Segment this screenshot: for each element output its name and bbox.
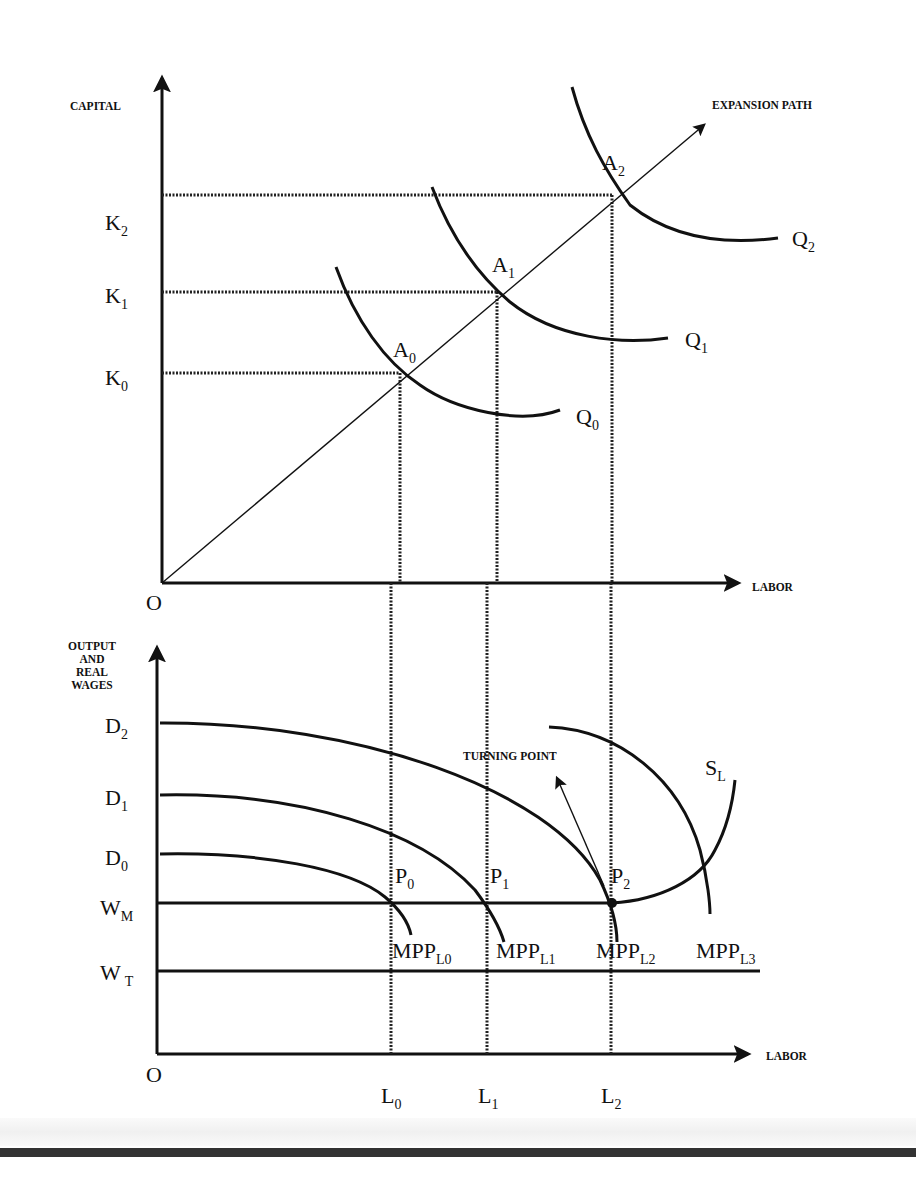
- p1-label: P1: [490, 863, 509, 892]
- k0-label: K0: [105, 365, 128, 394]
- k2-label: K2: [105, 210, 128, 239]
- expansion-path-label: EXPANSION PATH: [712, 99, 812, 111]
- p0-label: P0: [395, 863, 414, 892]
- capital-axis-label: CAPITAL: [70, 100, 121, 112]
- a2-label: A2: [602, 150, 625, 179]
- d2-label: D2: [105, 713, 128, 742]
- mpp-l2-label: MPPL2: [596, 938, 656, 967]
- q1-label: Q1: [685, 327, 708, 356]
- output-label: OUTPUT: [68, 640, 116, 652]
- labor-supply-curve: [612, 780, 735, 903]
- economics-diagram: CAPITAL LABOR O EXPANSION PATH K0 K1 K2 …: [0, 0, 916, 1184]
- labor-axis-label-top: LABOR: [752, 581, 794, 593]
- bottom-panel: OUTPUT AND REAL WAGES LABOR O TURNING PO…: [68, 583, 808, 1112]
- q0-label: Q0: [576, 404, 599, 433]
- origin-label-top: O: [146, 590, 162, 615]
- d0-label: D0: [105, 845, 128, 874]
- wt-label: WT: [100, 960, 134, 989]
- top-panel: CAPITAL LABOR O EXPANSION PATH K0 K1 K2 …: [70, 78, 815, 615]
- d1-label: D1: [105, 785, 128, 814]
- isoquant-q1: [432, 187, 668, 340]
- mpp-l0-curve: [160, 854, 411, 935]
- mpp-l1-curve: [160, 795, 504, 942]
- wages-label: WAGES: [71, 679, 113, 691]
- l2-label: L2: [601, 1083, 621, 1112]
- k1-label: K1: [105, 283, 128, 312]
- real-label: REAL: [76, 666, 108, 678]
- sl-label: SL: [705, 755, 726, 784]
- mpp-l0-label: MPPL0: [392, 938, 452, 967]
- origin-label-bottom: O: [146, 1062, 162, 1087]
- mpp-l1-label: MPPL1: [496, 938, 556, 967]
- and-label: AND: [80, 653, 105, 665]
- a0-label: A0: [393, 337, 416, 366]
- scan-bleed-band: [0, 1118, 916, 1146]
- p2-label: P2: [611, 863, 630, 892]
- a1-label: A1: [492, 252, 515, 281]
- turning-point-dot: [607, 898, 617, 908]
- l0-label: L0: [381, 1083, 401, 1112]
- turning-point-arrow: [557, 778, 604, 886]
- l1-label: L1: [478, 1083, 498, 1112]
- page-bottom-rule: [0, 1148, 916, 1157]
- labor-axis-label-bottom: LABOR: [766, 1050, 808, 1062]
- mpp-l3-label: MPPL3: [696, 938, 756, 967]
- turning-point-label: TURNING POINT: [463, 750, 557, 762]
- wm-label: WM: [100, 895, 134, 924]
- q2-label: Q2: [792, 226, 815, 255]
